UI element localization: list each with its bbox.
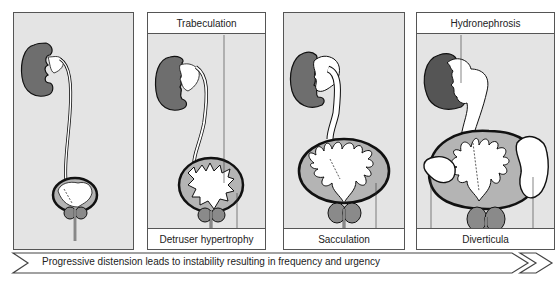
progression-arrow	[0, 0, 560, 282]
progression-caption: Progressive distension leads to instabil…	[42, 256, 380, 267]
